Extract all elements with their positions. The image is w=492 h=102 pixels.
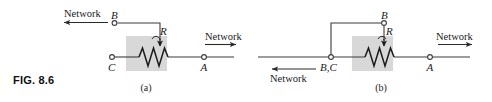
network-label-right-b: Network [436,31,473,42]
shaded-region-a [126,36,167,71]
terminal-label-b-b: B [381,9,388,21]
resistor-label-a: R [159,25,167,37]
shaded-region-b [352,36,393,71]
figure-canvas: Network Network B C A R (a) [0,0,492,102]
resistor-label-b: R [385,25,393,37]
terminal-node-a-a [202,55,207,60]
network-label-left-b: Network [270,73,307,84]
terminal-node-a-b [428,55,433,60]
terminal-node-bc-b [329,55,334,60]
terminal-node-b-a [112,21,117,26]
panel-a: Network Network B C A R (a) [64,8,242,94]
network-label-right-a: Network [205,31,242,42]
terminal-label-a-a: A [200,61,208,73]
terminal-label-c-a: C [108,61,116,73]
network-label-left-a: Network [64,8,101,19]
terminal-label-b-a: B [111,9,118,21]
terminal-label-a-b: A [426,61,434,73]
terminal-node-c-a [110,55,115,60]
caption-a: (a) [140,82,151,94]
panel-b: Network Network B B,C A R (b) [258,9,473,95]
caption-b: (b) [375,82,387,94]
figure-number-label: FIG. 8.6 [13,74,54,86]
terminal-label-bc-b: B,C [320,61,337,73]
figure-8-6: Network Network B C A R (a) [0,0,492,102]
